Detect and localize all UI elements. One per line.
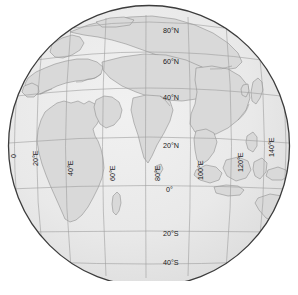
longitude-label-0: 0 bbox=[9, 154, 18, 158]
globe-figure: 80°N 60°N 40°N 20°N 0° 20°S 40°S 0 20°E … bbox=[0, 0, 298, 295]
latitude-label-80n: 80°N bbox=[163, 26, 179, 35]
longitude-label-120e: 120°E bbox=[236, 152, 245, 172]
longitude-label-40e: 40°E bbox=[66, 160, 75, 176]
longitude-label-140e: 140°E bbox=[267, 137, 276, 157]
latitude-label-20s: 20°S bbox=[163, 229, 179, 238]
longitude-label-100e: 100°E bbox=[196, 160, 205, 180]
latitude-label-0: 0° bbox=[166, 185, 173, 194]
longitude-label-80e: 80°E bbox=[153, 165, 162, 181]
longitude-label-20e: 20°E bbox=[31, 150, 40, 166]
latitude-labels: 80°N 60°N 40°N 20°N 0° 20°S 40°S bbox=[163, 26, 179, 267]
longitude-label-60e: 60°E bbox=[108, 165, 117, 181]
caption-strip bbox=[0, 281, 298, 295]
latitude-label-20n: 20°N bbox=[163, 141, 179, 150]
latitude-label-40s: 40°S bbox=[163, 258, 179, 267]
latitude-label-40n: 40°N bbox=[163, 93, 179, 102]
latitude-label-60n: 60°N bbox=[163, 57, 179, 66]
globe-map-svg: 80°N 60°N 40°N 20°N 0° 20°S 40°S 0 20°E … bbox=[0, 0, 298, 295]
